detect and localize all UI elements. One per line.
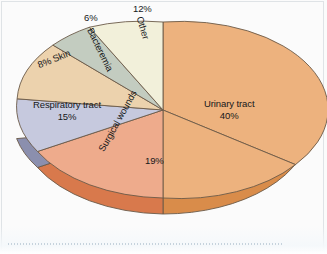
label-respiratory-tract: Respiratory tract 15% <box>33 99 101 122</box>
label-surgical-wounds-percent: 19% <box>145 155 164 166</box>
label-respiratory-tract-name: Respiratory tract <box>33 99 101 111</box>
pie-chart-figure: Urinary tract 40% Respiratory tract 15% … <box>0 0 327 254</box>
pie-chart-graphic <box>0 0 327 254</box>
label-bacteremia-percent: 6% <box>84 12 98 23</box>
label-urinary-tract: Urinary tract 40% <box>204 98 254 121</box>
label-other-percent: 12% <box>133 3 152 14</box>
label-urinary-tract-percent: 40% <box>204 110 254 122</box>
label-respiratory-tract-percent: 15% <box>33 111 101 123</box>
label-urinary-tract-name: Urinary tract <box>204 98 254 110</box>
pie-chart-canvas <box>0 0 327 254</box>
